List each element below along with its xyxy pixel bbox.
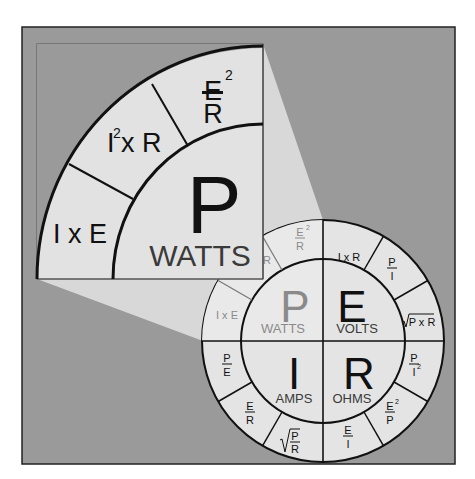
magnified-letter-p: P — [187, 159, 242, 250]
magnified-unit-watts: WATTS — [149, 239, 251, 272]
svg-text:x R: x R — [121, 128, 162, 158]
wheel-formula-ixr: I x R — [338, 251, 361, 263]
svg-text:I: I — [390, 270, 393, 282]
svg-text:R: R — [203, 99, 223, 129]
svg-text:R: R — [291, 443, 299, 455]
svg-text:E: E — [344, 424, 351, 436]
svg-text:E: E — [246, 400, 253, 412]
wheel-formula-i2r-partial: R — [263, 254, 271, 266]
wheel-unit-volts: VOLTS — [336, 321, 378, 336]
wheel-unit-amps: AMPS — [276, 391, 313, 406]
wheel-unit-ohms: OHMS — [333, 391, 372, 406]
svg-text:2: 2 — [113, 125, 121, 141]
svg-text:I: I — [412, 366, 415, 378]
svg-text:2: 2 — [395, 398, 399, 405]
svg-text:2: 2 — [417, 363, 421, 370]
svg-text:P: P — [223, 352, 230, 364]
svg-text:R: R — [246, 414, 254, 426]
svg-text:P x R: P x R — [409, 316, 436, 328]
svg-text:2: 2 — [225, 67, 233, 83]
svg-text:P: P — [386, 414, 393, 426]
svg-text:E: E — [386, 400, 393, 412]
magnified-formula-ixe: I x E — [53, 219, 107, 249]
svg-text:E: E — [296, 226, 303, 238]
wheel-unit-watts: WATTS — [261, 321, 305, 336]
svg-text:R: R — [296, 240, 304, 252]
magnified-quadrant: P WATTS I x E I 2 x R E 2 R — [37, 44, 263, 279]
svg-text:E: E — [223, 366, 230, 378]
svg-text:2: 2 — [306, 224, 310, 231]
svg-text:P: P — [291, 430, 298, 442]
svg-text:I: I — [346, 438, 349, 450]
ohms-law-wheel-diagram: P WATTS E VOLTS I AMPS R OHMS I x E R E … — [0, 0, 475, 479]
svg-text:P: P — [388, 256, 395, 268]
wheel-formula-ixe: I x E — [216, 309, 238, 321]
